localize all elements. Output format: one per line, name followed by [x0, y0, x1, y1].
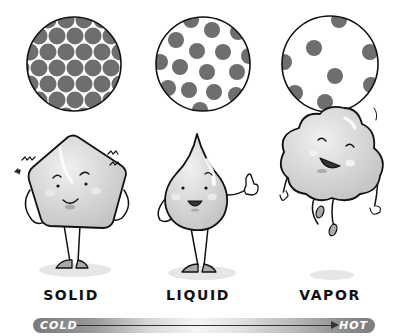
vapor-particle-diagram [276, 12, 379, 112]
arrow-right-icon [331, 321, 339, 329]
states-of-matter-diagram: SOLID LIQUID VAPOR COLD HOT [0, 0, 412, 336]
cold-label: COLD [40, 318, 78, 333]
illustration [0, 0, 412, 336]
solid-label: SOLID [16, 287, 126, 303]
solid-particle-diagram [13, 12, 138, 125]
hot-label: HOT [339, 318, 368, 333]
liquid-shadow [168, 266, 236, 280]
liquid-particle-diagram [152, 12, 257, 118]
arrow-line [77, 325, 337, 326]
solid-character-ice [15, 136, 129, 269]
vapor-label: VAPOR [275, 287, 385, 303]
vapor-character-cloud [280, 107, 383, 237]
liquid-character-drop [158, 134, 258, 272]
solid-shadow [39, 263, 111, 277]
vapor-shadow [310, 270, 354, 280]
liquid-label: LIQUID [143, 287, 253, 303]
temperature-scale-bar: COLD HOT [33, 318, 375, 333]
